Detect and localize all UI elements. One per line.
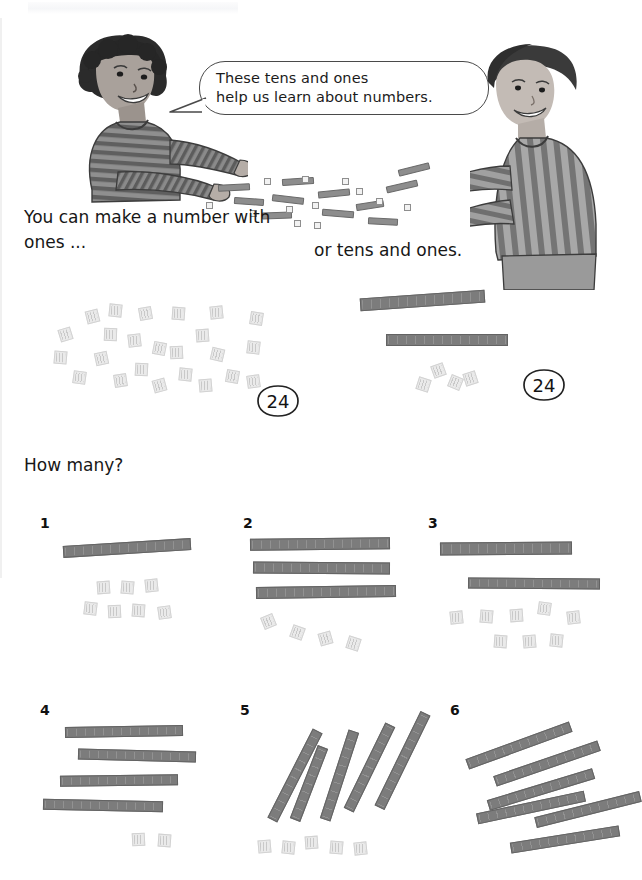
ones-cube xyxy=(57,326,73,342)
ones-cube xyxy=(157,605,172,620)
ones-cube xyxy=(447,374,464,391)
ones-cube xyxy=(415,376,431,392)
ones-cube xyxy=(120,580,134,594)
body-text-left: You can make a number with ones ... xyxy=(24,205,294,255)
question-number: 3 xyxy=(428,515,438,531)
ones-cube xyxy=(132,833,146,847)
ones-cube xyxy=(85,309,101,325)
ones-cube xyxy=(83,601,97,615)
ones-cube xyxy=(257,839,271,853)
mini-one xyxy=(356,188,363,195)
ones-cube xyxy=(210,347,226,363)
mini-one xyxy=(342,178,349,185)
ones-cube xyxy=(97,581,111,595)
ones-cube xyxy=(449,610,463,624)
mini-rod xyxy=(282,177,314,186)
ones-cube xyxy=(144,578,158,592)
question-2: 2 xyxy=(243,515,433,655)
answer-badge-example-ones: 24 xyxy=(256,384,300,418)
ones-cube xyxy=(108,605,122,619)
question-5: 5 xyxy=(240,700,430,870)
mini-rod xyxy=(398,162,431,177)
ones-cube xyxy=(172,307,186,321)
cropped-header-remnant xyxy=(28,2,238,14)
speech-bubble: These tens and ones help us learn about … xyxy=(199,61,489,115)
tens-rod xyxy=(440,541,572,555)
ones-cube xyxy=(72,370,87,385)
question-number: 2 xyxy=(243,515,253,531)
ones-cube xyxy=(494,635,508,649)
tens-rod xyxy=(253,562,390,575)
ones-cube xyxy=(345,635,361,651)
question-3: 3 xyxy=(428,515,628,660)
tens-rod xyxy=(65,725,183,738)
ones-cube xyxy=(198,378,212,392)
questions-heading: How many? xyxy=(24,455,123,475)
ones-cube xyxy=(289,624,306,641)
mini-rod xyxy=(322,209,354,219)
answer-badge-example-tens: 24 xyxy=(522,368,566,402)
ones-cube xyxy=(138,306,153,321)
mini-rod xyxy=(272,194,305,205)
question-number: 4 xyxy=(40,702,50,718)
ones-cube xyxy=(127,333,141,347)
question-4: 4 xyxy=(40,700,240,870)
ones-cube xyxy=(537,601,552,616)
ones-cube xyxy=(246,340,260,354)
mini-one xyxy=(376,198,383,205)
ones-cube xyxy=(281,840,295,854)
ones-cube xyxy=(522,634,536,648)
ones-cube xyxy=(132,604,146,618)
speech-line-1: These tens and ones xyxy=(216,69,484,88)
tens-rod xyxy=(78,748,196,762)
ones-cube xyxy=(430,362,447,379)
ones-cube xyxy=(549,633,563,647)
ones-cube xyxy=(305,836,319,850)
ones-cube xyxy=(196,329,210,343)
tens-rod xyxy=(360,290,486,312)
ones-cube xyxy=(566,610,580,624)
mini-rod xyxy=(386,179,419,193)
question-number: 6 xyxy=(450,702,460,718)
mini-rod xyxy=(318,188,351,198)
tens-rod xyxy=(43,799,163,813)
tens-rod xyxy=(468,578,600,590)
mini-one xyxy=(404,204,411,211)
answer-value: 24 xyxy=(533,375,556,396)
ones-cube xyxy=(94,351,109,366)
tens-rod xyxy=(256,585,396,599)
ones-cube xyxy=(108,303,122,317)
ones-cube xyxy=(152,341,167,356)
body-text-right: or tens and ones. xyxy=(314,238,554,263)
ones-cube xyxy=(152,378,168,394)
ones-cube xyxy=(462,370,478,386)
example-ones-only: 24 xyxy=(52,296,282,406)
tens-rod xyxy=(510,825,620,853)
tens-rod xyxy=(63,538,191,558)
mini-one xyxy=(314,222,321,229)
speech-bubble-tail xyxy=(168,96,202,112)
mini-one xyxy=(264,178,271,185)
question-6: 6 xyxy=(450,700,636,870)
question-1: 1 xyxy=(40,515,230,655)
ones-cube xyxy=(353,841,367,855)
mini-one xyxy=(302,176,309,183)
question-number: 5 xyxy=(240,702,250,718)
tens-rod xyxy=(386,334,508,346)
speech-bubble-text: These tens and ones help us learn about … xyxy=(216,69,484,107)
ones-cube xyxy=(178,367,192,381)
speech-line-2: help us learn about numbers. xyxy=(216,88,484,107)
answer-value: 24 xyxy=(267,391,290,412)
ones-cube xyxy=(317,630,333,646)
ones-cube xyxy=(209,305,223,319)
ones-cube xyxy=(225,369,240,384)
example-tens-and-ones: 24 xyxy=(360,290,590,410)
mini-one xyxy=(294,220,301,227)
ones-cube xyxy=(260,613,277,630)
ones-cube xyxy=(104,328,117,341)
ones-cube xyxy=(135,363,149,377)
tens-rod xyxy=(250,537,390,550)
ones-cube xyxy=(158,834,172,848)
ones-cube xyxy=(249,311,264,326)
